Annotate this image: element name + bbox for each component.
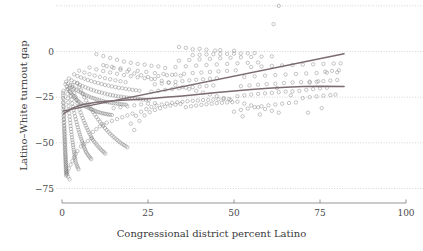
- data-points-group: [61, 4, 342, 181]
- gridlines-group: [56, 6, 423, 189]
- y-tick-label: −75: [24, 184, 54, 194]
- x-tick-label: 50: [228, 208, 239, 218]
- chart-figure: 0−25−50−75 0255075100 Congressional dist…: [0, 0, 423, 251]
- x-axis-group: [62, 200, 406, 204]
- y-tick-label: −50: [24, 138, 54, 148]
- y-tick-label: −25: [24, 92, 54, 102]
- y-axis-title: Latino–White turnout gap: [18, 26, 29, 186]
- x-tick-label: 100: [397, 208, 414, 218]
- x-axis-title: Congressional district percent Latino: [0, 228, 423, 239]
- x-tick-label: 0: [59, 208, 65, 218]
- y-tick-label: 0: [24, 47, 54, 57]
- x-tick-label: 25: [142, 208, 153, 218]
- x-tick-label: 75: [314, 208, 325, 218]
